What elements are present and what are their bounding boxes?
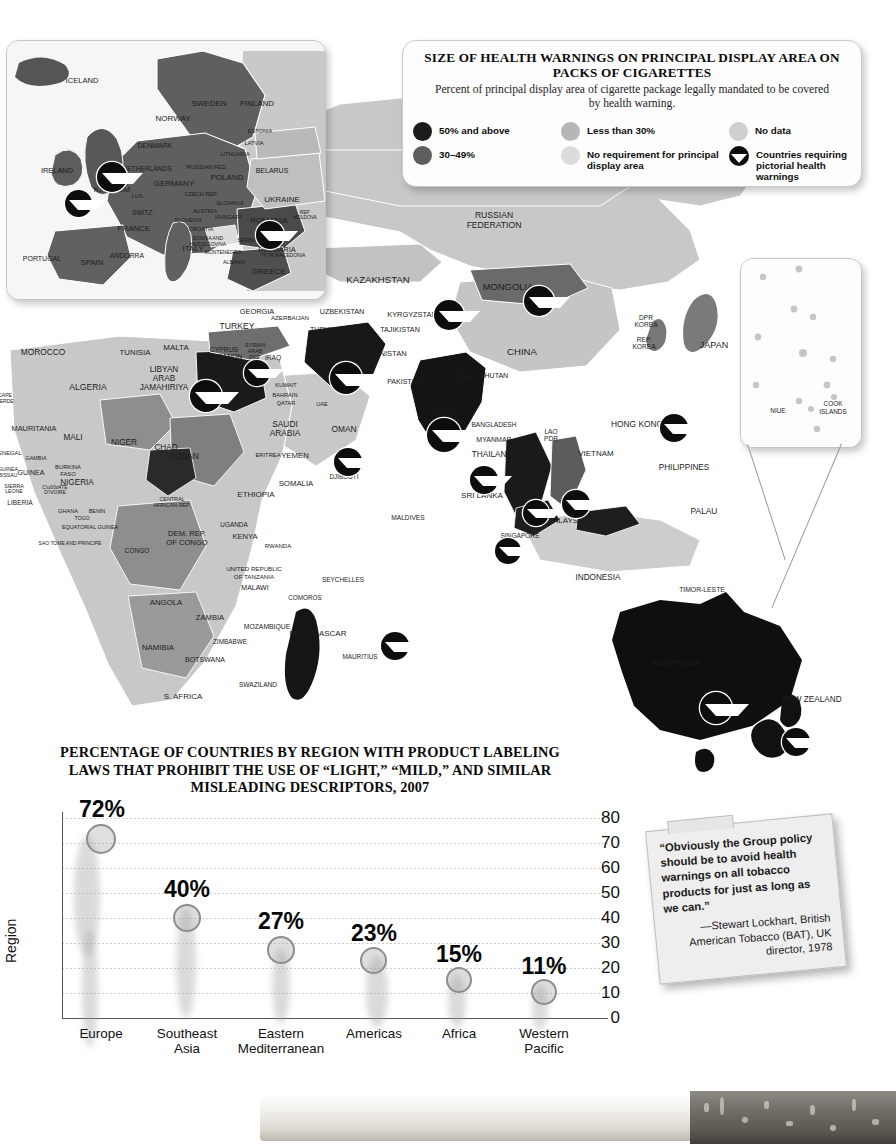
legend-swatch-icon [561,122,580,141]
legend-item-pictorial-warnings: Countries requiring pictorial health war… [729,147,853,183]
chart-y-tick: 50 [580,887,620,899]
europe-inset-svg: ICELAND NORWAY SWEDEN FINLAND DENMARK UN… [7,41,325,299]
chart-data-point [531,979,557,1005]
pictorial-warning-icon [729,146,749,166]
europe-inset-map: ICELAND NORWAY SWEDEN FINLAND DENMARK UN… [6,40,326,300]
chart-gridline [62,818,608,819]
legend-item-less-than-30: Less than 30% [561,123,729,141]
tobacco-fleck [742,1117,748,1123]
legend-title: SIZE OF HEALTH WARNINGS ON PRINCIPAL DIS… [403,41,861,80]
legend-item-label: Countries requiring pictorial health war… [756,147,853,183]
chart-data-point [173,904,201,932]
chart-y-axis [62,812,63,1018]
chart-data-point [267,936,295,964]
chart-value-label: 40% [147,876,227,903]
chart-y-tick: 80 [580,812,620,824]
chart-x-tick: Eastern Mediterranean [221,1026,341,1057]
legend-subtitle: Percent of principal display area of cig… [403,80,861,110]
tobacco-fleck [830,1125,836,1131]
pictorial-warning-badge-singapore [495,538,521,564]
pictorial-warning-badge-belgium [65,190,92,217]
legend-item-label: No data [755,123,791,136]
tobacco-fleck [852,1099,856,1111]
chart-data-point [446,967,472,993]
legend-item-30-49: 30–49% [413,147,561,183]
pictorial-warning-badge-egypt [190,380,222,412]
pictorial-warning-badge-philippines [562,490,590,518]
chart-x-tick: Americas [334,1026,414,1041]
tobacco-fleck [720,1097,724,1115]
chart-gridline [62,868,608,869]
pacific-inset-svg: NIUE COOK ISLANDS [741,259,861,447]
chart-gridline [62,893,608,894]
pictorial-warning-badge-djibouti [334,448,362,476]
chart-y-axis-label: Region [3,919,19,963]
chart-y-tick: 40 [580,912,620,924]
legend-item-50-and-above: 50% and above [413,123,561,141]
legend-item-label: 50% and above [439,123,510,136]
quote-text: “Obviously the Group policy should be to… [647,817,839,917]
chart-title: PERCENTAGE OF COUNTRIES BY REGION WITH P… [0,740,620,797]
legend-swatch-icon [413,122,432,141]
pictorial-warning-badge-new-zealand [782,728,810,756]
chart-x-tick: Western Pacific [504,1026,584,1057]
pictorial-warning-badge-australia [700,692,732,724]
tobacco-fleck [786,1121,793,1126]
chart-value-label: 27% [241,908,321,935]
cigarette-tobacco [690,1091,896,1144]
legend-item-no-data: No data [729,123,853,141]
legend-swatch-icon [413,146,432,165]
tobacco-fleck [704,1103,709,1112]
legend-items: 50% and above Less than 30% No data 30–4… [413,123,853,183]
pictorial-warning-badge-mauritius [381,632,409,660]
pictorial-warning-badge-mongolia [524,286,554,316]
chart-x-axis [62,1018,608,1019]
chart-gridline [62,843,608,844]
pictorial-warning-badge-malaysia [523,500,549,526]
legend-swatch-icon [729,122,748,141]
legend-swatch-icon [561,146,580,165]
pictorial-warning-badge-thailand [470,466,498,494]
pictorial-warning-badge-romania [256,221,284,249]
map-legend-card: SIZE OF HEALTH WARNINGS ON PRINCIPAL DIS… [402,40,862,187]
chart-y-tick: 10 [580,987,620,999]
chart-y-tick: 20 [580,962,620,974]
chart-y-tick: 0 [580,1012,620,1024]
chart-x-tick: Europe [61,1026,141,1041]
legend-item-no-requirement: No requirement for principal display are… [561,147,729,183]
chart-value-label: 72% [62,796,142,823]
chart-x-tick: Southeast Asia [147,1026,227,1057]
chart-value-label: 11% [504,953,584,980]
pictorial-warning-badge-syria [244,360,270,386]
chart-data-point [360,947,387,974]
chart-data-point [86,824,116,854]
legend-item-label: No requirement for principal display are… [587,147,729,171]
tobacco-fleck [872,1119,879,1125]
pictorial-warning-badge-hong-kong [660,414,688,442]
chart-value-label: 23% [334,920,414,947]
chart-gridline [62,918,608,919]
pictorial-warning-badge-india [427,418,461,452]
chart-x-tick: Africa [419,1026,499,1041]
chart-plot-area: Region 80 70 60 50 40 30 20 10 0 [0,808,620,1078]
legend-item-label: 30–49% [439,147,475,160]
pictorial-warning-badge-iran [330,362,362,394]
chart-y-tick: 70 [580,837,620,849]
tobacco-fleck [764,1101,769,1109]
smoke-wisp [74,836,100,956]
cigarette-filter [260,1094,700,1141]
quote-sticky-note: “Obviously the Group policy should be to… [645,813,847,984]
tobacco-fleck [810,1105,815,1115]
chart-y-tick: 30 [580,937,620,949]
pictorial-warning-badge-kyrgyzstan [434,300,464,330]
chart-y-tick: 60 [580,862,620,874]
chart-value-label: 15% [419,941,499,968]
pacific-islands-inset-map: NIUE COOK ISLANDS [740,258,862,448]
region-labeling-laws-chart: PERCENTAGE OF COUNTRIES BY REGION WITH P… [0,740,620,1080]
cigarette-graphic: 77 [260,1088,896,1147]
chart-gridline [62,993,608,994]
pictorial-warning-badge-uk [97,162,127,192]
legend-item-label: Less than 30% [587,123,655,136]
